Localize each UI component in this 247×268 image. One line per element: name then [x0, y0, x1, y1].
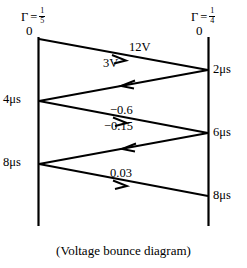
voltage-bounce-diagram: Γ = 1 5 0 4μs 8μs Γ = 1 4 0 2μs 6μs 8μs …	[0, 0, 247, 268]
wave-label-4: −0.15	[104, 120, 133, 133]
left-gamma-fraction: 1 5	[39, 7, 45, 25]
right-gamma-fraction: 1 4	[209, 7, 215, 25]
right-origin-label: 0	[196, 24, 203, 37]
wave-label-2: 3V	[103, 57, 118, 70]
left-gamma-denominator: 5	[39, 17, 45, 25]
wave-label-5: 0.03	[110, 167, 132, 180]
arrowhead-right-5	[113, 181, 127, 190]
left-tick-label-8us: 8μs	[3, 156, 21, 169]
left-gamma-symbol: Γ	[21, 11, 28, 24]
wave-label-1: 12V	[129, 41, 151, 54]
wave-label-3: −0.6	[110, 104, 133, 117]
right-tick-label-2us: 2μs	[213, 63, 231, 76]
right-tick-label-6us: 6μs	[213, 126, 231, 139]
right-reflection-coefficient-label: Γ = 1 4	[191, 8, 215, 26]
left-gamma-equals: =	[30, 11, 37, 24]
right-gamma-equals: =	[200, 11, 207, 24]
right-gamma-denominator: 4	[209, 17, 215, 25]
left-tick-label-4us: 4μs	[3, 93, 21, 106]
left-origin-label: 0	[26, 24, 33, 37]
right-tick-label-8us: 8μs	[213, 189, 231, 202]
left-gamma-numerator: 1	[39, 7, 45, 15]
figure-caption: (Voltage bounce diagram)	[0, 243, 247, 259]
right-gamma-numerator: 1	[209, 7, 215, 15]
left-reflection-coefficient-label: Γ = 1 5	[21, 8, 45, 26]
bounce-diagram-canvas	[0, 0, 247, 268]
wave-segment-1	[39, 39, 208, 70]
right-gamma-symbol: Γ	[191, 11, 198, 24]
